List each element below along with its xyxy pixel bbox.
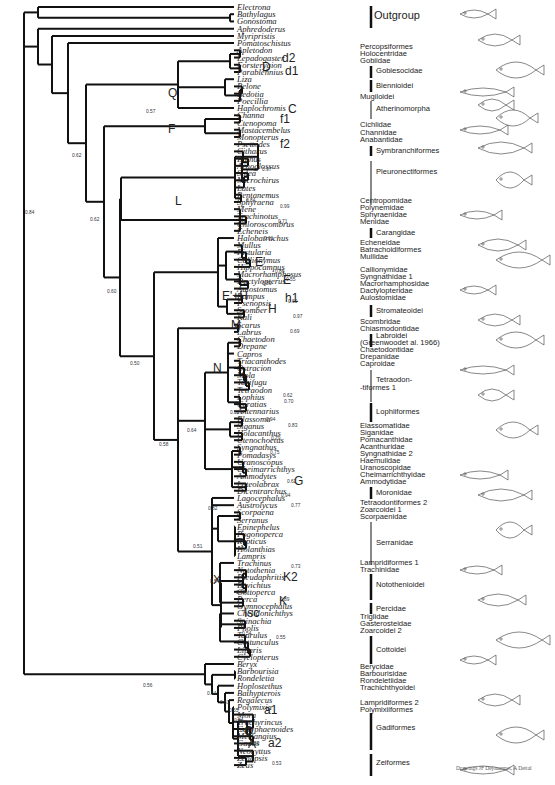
support-value: 0.51 — [220, 699, 229, 705]
support-value: 0.89 — [280, 596, 289, 602]
fish-drawing-icon — [460, 565, 502, 575]
group-label: -tiformes 1 — [360, 384, 396, 392]
fish-eye-icon — [464, 12, 466, 14]
fish-drawing-icon — [460, 470, 508, 480]
fish-eye-icon — [464, 288, 466, 290]
clade-label: f1 — [280, 113, 290, 125]
clade-label: L — [175, 195, 182, 207]
support-value: 0.79 — [271, 435, 280, 441]
support-value: 0.51 — [230, 409, 239, 415]
group-label: Trachinidae — [360, 566, 399, 574]
support-value: 0.94 — [266, 416, 275, 422]
fish-eye-icon — [500, 68, 502, 70]
support-value: 0.77 — [291, 502, 300, 508]
fish-drawing-icon — [496, 110, 538, 126]
group-label: Gobiidae — [360, 57, 390, 65]
clade-label: D — [262, 61, 271, 73]
group-label: Scorpaenidae — [360, 513, 407, 521]
fish-drawing-icon — [478, 594, 526, 606]
clade-label: N — [213, 362, 222, 374]
fish-drawing-icon — [460, 87, 514, 97]
group-label: Lophiiformes — [376, 408, 419, 416]
fish-eye-icon — [500, 528, 502, 530]
fish-eye-icon — [482, 318, 484, 320]
support-value: 0.84 — [246, 197, 255, 203]
fish-illustrations — [460, 9, 550, 775]
support-value: 0.75 — [270, 449, 279, 455]
fish-eye-icon — [500, 258, 502, 260]
fish-eye-icon — [500, 116, 502, 118]
fish-eye-icon — [500, 428, 502, 430]
group-label: Pleuronectiformes — [376, 168, 437, 176]
clade-label: E' — [255, 256, 265, 268]
support-value: 0.97 — [262, 166, 271, 172]
group-label: Zeiformes — [376, 759, 410, 767]
clade-label: a1 — [264, 704, 277, 716]
clade-label: d2 — [282, 52, 295, 64]
fish-eye-icon — [464, 658, 466, 660]
support-value: 0.62 — [72, 152, 81, 158]
clade-label: Q — [168, 87, 177, 99]
clade-label: F — [168, 123, 175, 135]
group-label: Aulostomidae — [360, 294, 406, 302]
fish-drawing-icon — [478, 142, 532, 154]
group-label: Atherinomorpha — [376, 105, 430, 113]
support-value: 0.97 — [293, 313, 302, 319]
group-label: Notothenioidei — [376, 581, 425, 589]
fish-drawing-icon — [478, 34, 520, 46]
group-label: Mullidae — [360, 253, 388, 261]
support-value: 0.60 — [107, 288, 116, 294]
group-label: Zoarcoidei 2 — [360, 627, 402, 635]
support-value: 0.55 — [229, 707, 238, 713]
support-value: 0.50 — [130, 360, 139, 366]
support-value: 0.62 — [90, 216, 99, 222]
group-label: Anabantidae — [360, 136, 403, 144]
support-value: 0.86 — [275, 268, 284, 274]
fish-drawing-icon — [478, 239, 526, 251]
fish-drawing-icon — [496, 62, 544, 78]
support-value: 0.57 — [146, 108, 155, 114]
clade-label: d1 — [285, 65, 298, 77]
fish-eye-icon — [482, 103, 484, 105]
drawing-credit: Drawings JF Dejouannet, A Dettaï — [456, 765, 532, 771]
support-value: 0.58 — [159, 441, 168, 447]
fish-drawing-icon — [496, 422, 538, 438]
fish-drawing-icon — [460, 365, 514, 375]
group-label: Mugiloidei — [360, 93, 394, 101]
support-value: 0.82 — [208, 505, 217, 511]
fish-drawing-icon — [496, 252, 550, 268]
group-label: Serranidae — [376, 539, 413, 547]
support-value: 0.53 — [250, 740, 259, 746]
support-value: 0.94 — [281, 492, 290, 498]
fish-drawing-icon — [478, 694, 520, 706]
support-value: 0.54 — [242, 630, 251, 636]
support-value: 0.61 — [264, 235, 273, 241]
fish-eye-icon — [500, 338, 502, 340]
support-value: 0.99 — [236, 589, 245, 595]
fish-eye-icon — [482, 146, 484, 148]
group-label: Blennioidei — [376, 82, 413, 90]
group-label: Caproidae — [360, 360, 395, 368]
group-label: Moronidae — [376, 489, 412, 497]
group-label: Carangidae — [376, 229, 415, 237]
support-value: 0.55 — [286, 276, 295, 282]
group-label: Symbranchiformes — [376, 147, 439, 155]
support-value: 0.73 — [291, 563, 300, 569]
support-value: 0.83 — [288, 422, 297, 428]
clade-label: K2 — [283, 571, 298, 583]
group-label: Gadiformes — [376, 724, 415, 732]
group-label: Trachichthyoidei — [360, 684, 415, 692]
fish-eye-icon — [482, 493, 484, 495]
group-label: Cottoidei — [376, 646, 406, 654]
fish-eye-icon — [482, 38, 484, 40]
fish-drawing-icon — [478, 489, 532, 501]
fish-drawing-icon — [496, 632, 550, 648]
support-value: 0.71 — [278, 218, 287, 224]
clade-label: Isc — [244, 607, 259, 619]
group-label: Polymixiiformes — [360, 706, 413, 714]
support-value: 0.84 — [25, 209, 34, 215]
clade-label: a2 — [268, 737, 281, 749]
support-value: 0.60 — [288, 298, 297, 304]
fish-drawing-icon — [460, 125, 508, 135]
support-value: 0.54 — [207, 690, 216, 696]
